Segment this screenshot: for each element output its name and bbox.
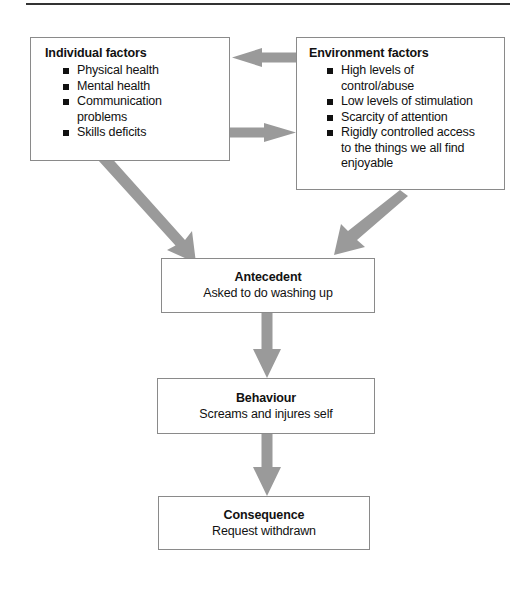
list-item: Physical health [63, 63, 223, 79]
arrow-antecedent-to-behaviour [253, 313, 281, 378]
square-bullet-icon [327, 68, 333, 74]
list-item-text: Rigidly controlled access [341, 125, 475, 139]
list-item: Low levels of stimulation [327, 94, 498, 110]
list-item-text: Scarcity of attention [341, 110, 448, 124]
box-behaviour: Behaviour Screams and injures self [157, 378, 375, 434]
square-bullet-icon [63, 84, 69, 90]
arrow-environment-to-individual [232, 48, 296, 67]
behaviour-title: Behaviour [236, 390, 296, 406]
box-individual-factors: Individual factors Physical health Menta… [30, 37, 230, 161]
box-consequence: Consequence Request withdrawn [158, 496, 370, 550]
square-bullet-icon [63, 68, 69, 74]
top-divider-rule [26, 3, 510, 5]
list-item-text: Mental health [77, 79, 150, 93]
individual-factors-title: Individual factors [45, 46, 223, 61]
square-bullet-icon [327, 115, 333, 121]
list-item-text-continuation: control/abuse [341, 79, 498, 95]
square-bullet-icon [63, 99, 69, 105]
list-item: Communication problems [63, 94, 223, 125]
list-item-text: High levels of [341, 63, 414, 77]
square-bullet-icon [63, 130, 69, 136]
box-environment-factors: Environment factors High levels of contr… [296, 37, 505, 190]
list-item: Mental health [63, 79, 223, 95]
arrow-individual-to-antecedent [98, 154, 196, 264]
list-item: Skills deficits [63, 125, 223, 141]
behaviour-subtitle: Screams and injures self [199, 406, 332, 423]
square-bullet-icon [327, 99, 333, 105]
diagram-canvas: Individual factors Physical health Menta… [0, 0, 528, 589]
antecedent-subtitle: Asked to do washing up [203, 285, 332, 302]
arrow-individual-to-environment [230, 123, 296, 142]
arrow-behaviour-to-consequence [253, 434, 281, 496]
square-bullet-icon [327, 130, 333, 136]
list-item-text: Skills deficits [77, 125, 146, 139]
list-item-text-continuation: to the things we all find [341, 141, 498, 157]
consequence-title: Consequence [224, 507, 305, 523]
consequence-subtitle: Request withdrawn [212, 523, 316, 540]
individual-factors-list: Physical health Mental health Communicat… [45, 63, 223, 141]
list-item-text: Low levels of stimulation [341, 94, 473, 108]
list-item: Rigidly controlled access to the things … [327, 125, 498, 172]
list-item-text: Physical health [77, 63, 159, 77]
list-item: Scarcity of attention [327, 110, 498, 126]
list-item-text: Communication [77, 94, 162, 108]
box-antecedent: Antecedent Asked to do washing up [161, 258, 375, 313]
list-item-text-continuation: problems [77, 110, 223, 126]
arrow-environment-to-antecedent [334, 190, 408, 255]
list-item-text-continuation-2: enjoyable [341, 156, 498, 172]
environment-factors-list: High levels of control/abuse Low levels … [309, 63, 498, 172]
environment-factors-title: Environment factors [309, 46, 498, 61]
list-item: High levels of control/abuse [327, 63, 498, 94]
antecedent-title: Antecedent [234, 269, 301, 285]
